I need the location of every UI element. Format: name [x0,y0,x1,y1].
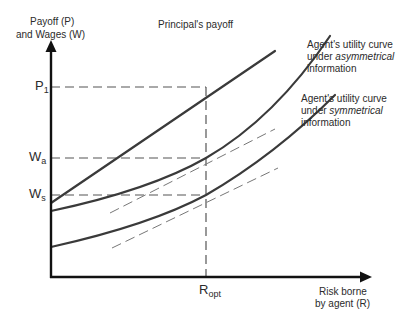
x-axis-arrow-icon [360,272,372,283]
asym-curve-label: Agent's utility curve under asymmetrical… [307,39,394,75]
principal-payoff-line [51,51,275,203]
principal-payoff-label: Principal's payoff [158,19,233,31]
sym-tangent [112,168,278,248]
x-axis-title-line1: Risk borne [319,286,367,298]
tick-wa: Wa [29,150,46,168]
reference-lines [51,87,206,277]
tick-p1: P1 [35,79,49,97]
y-axis-arrow-icon [46,40,57,52]
asym-label-line1: Agent's utility curve [307,39,394,51]
x-axis-title-line2: by agent (R) [315,298,370,310]
sym-label-line3: information [301,117,387,129]
asym-label-line3: information [307,63,394,75]
y-axis-title-line2: and Wages (W) [16,29,85,41]
asym-utility-curve [51,36,330,211]
asym-tangent [110,129,275,213]
tick-ropt: Ropt [199,283,221,301]
sym-label-line1: Agent's utility curve [301,93,387,105]
y-axis-title-line1: Payoff (P) [30,16,74,28]
sym-curve-label: Agent's utility curve under symmetrical … [301,93,387,129]
tick-ws: Ws [29,187,46,205]
sym-label-line2: under symmetrical [301,105,387,117]
asym-label-line2: under asymmetrical [307,51,394,63]
